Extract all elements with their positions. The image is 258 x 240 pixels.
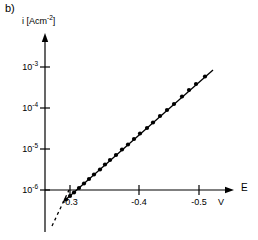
- data-point: [145, 126, 149, 130]
- y-tick-mantissa: 10: [22, 103, 32, 113]
- data-point: [126, 142, 130, 146]
- x-axis-arrowhead: [225, 187, 234, 193]
- y-tick-mantissa: 10: [22, 185, 32, 195]
- data-point: [180, 94, 184, 98]
- data-point: [165, 108, 169, 112]
- x-axis-name: E: [241, 183, 248, 193]
- y-tick-mantissa: 10: [22, 62, 32, 72]
- data-point: [108, 158, 112, 162]
- y-tick-exponent: -3: [32, 60, 38, 67]
- x-axis-unit: V: [218, 198, 224, 207]
- x-tick-label--0.3: -0.3: [54, 198, 86, 207]
- data-point: [194, 82, 198, 86]
- y-tick-exponent: -5: [32, 142, 38, 149]
- y-tick-mantissa: 10: [22, 144, 32, 154]
- tafel-extrapolation-dashed: [52, 190, 69, 226]
- data-point: [98, 167, 102, 171]
- y-tick-exponent: -4: [32, 101, 38, 108]
- data-point: [114, 153, 118, 157]
- data-point: [172, 102, 176, 106]
- y-tick-label-1e-4: 10-4: [8, 102, 38, 113]
- data-point: [92, 172, 96, 176]
- data-point: [187, 88, 191, 92]
- data-point: [72, 190, 76, 194]
- data-point: [120, 147, 124, 151]
- x-tick-label--0.5: -0.5: [183, 198, 215, 207]
- data-point: [87, 177, 91, 181]
- data-point: [103, 162, 107, 166]
- data-point: [138, 131, 142, 135]
- x-tick-label--0.4: -0.4: [123, 198, 155, 207]
- data-point: [132, 137, 136, 141]
- data-point: [158, 114, 162, 118]
- y-tick-label-1e-5: 10-5: [8, 143, 38, 154]
- y-tick-label-1e-6: 10-6: [8, 184, 38, 195]
- figure-panel-b: b) i [Acm-2]: [0, 0, 258, 240]
- y-tick-exponent: -6: [32, 183, 38, 190]
- data-point: [151, 120, 155, 124]
- data-point: [77, 186, 81, 190]
- data-point: [203, 74, 207, 78]
- data-point: [82, 181, 86, 185]
- y-axis-arrowhead: [42, 33, 48, 42]
- y-tick-label-1e-3: 10-3: [8, 61, 38, 72]
